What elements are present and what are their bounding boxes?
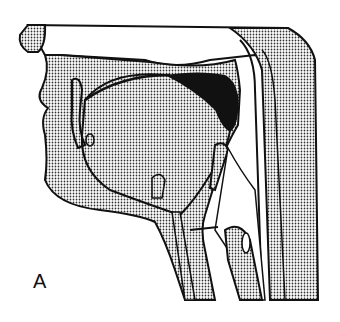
arytenoid-cartilage — [242, 233, 250, 253]
panel-label: A — [33, 270, 46, 293]
nose — [20, 25, 45, 52]
anatomy-diagram — [0, 0, 340, 322]
hyoid — [152, 174, 165, 198]
